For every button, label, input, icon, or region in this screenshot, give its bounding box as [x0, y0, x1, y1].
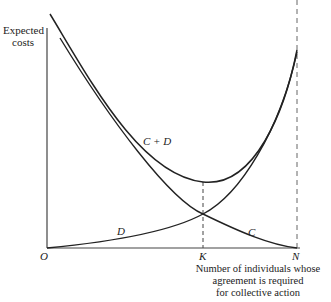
y-axis-label-line2: costs	[12, 36, 34, 48]
x-axis-label-line3: for collective action	[216, 287, 301, 298]
x-axis-label-line1: Number of individuals whose	[196, 263, 321, 274]
c-curve	[60, 38, 297, 248]
y-axis-label-line1: Expected	[3, 24, 44, 36]
k-tick-label: K	[198, 250, 207, 262]
cost-chart: Expected costs C + D D C O K N Number of…	[0, 0, 331, 302]
x-axis-label-line2: agreement is required	[213, 275, 305, 286]
origin-label: O	[40, 250, 48, 262]
c-plus-d-curve	[50, 14, 297, 182]
n-tick-label: N	[291, 250, 300, 262]
c-label: C	[248, 226, 256, 238]
c-plus-d-label: C + D	[143, 135, 171, 147]
d-label: D	[116, 225, 125, 237]
